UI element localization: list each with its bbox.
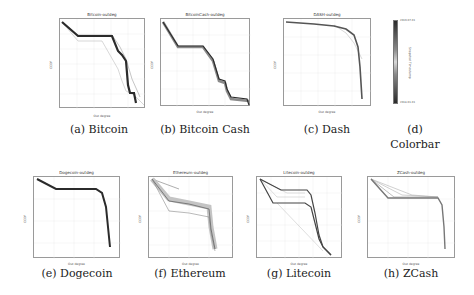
caption-f: (f) Ethereum <box>135 267 245 280</box>
y-axis-label: CCDF <box>357 209 361 223</box>
plot-area <box>160 18 250 106</box>
ccdf-curves <box>284 19 372 107</box>
colorbar-label: Snapshot Timestamp <box>408 47 412 77</box>
panel-title: BitcoinCash-outdeg <box>160 12 250 17</box>
panel-title: Bitcoin-outdeg <box>59 12 145 17</box>
x-axis-label: Out degree <box>160 110 250 114</box>
colorbar-top-tick: 2019-07-01 <box>400 19 415 22</box>
colorbar <box>393 20 398 104</box>
x-axis-label: Out degree <box>367 262 455 266</box>
y-axis-label: CCDF <box>23 209 27 223</box>
caption-a: (a) Bitcoin <box>44 123 154 136</box>
y-axis-label: CCDF <box>150 55 154 69</box>
caption-e: (e) Dogecoin <box>22 267 132 280</box>
panel-title: Litecoin-outdeg <box>256 170 342 175</box>
colorbar-bottom-tick: 2018-01-01 <box>400 101 415 104</box>
panel-title: ZCash-outdeg <box>367 170 455 175</box>
x-axis-label: Out degree <box>59 114 145 118</box>
ccdf-curves <box>34 177 121 259</box>
x-axis-label: Out degree <box>33 262 120 266</box>
y-axis-label: CCDF <box>49 55 53 69</box>
ccdf-curves <box>257 177 343 259</box>
panel-title: Ethereum-outdeg <box>148 170 233 175</box>
x-axis-label: Out degree <box>283 110 371 114</box>
y-axis-label: CCDF <box>138 209 142 223</box>
plot-area <box>256 176 342 258</box>
panel-title: DASH-outdeg <box>283 12 371 17</box>
ccdf-curves <box>368 177 456 259</box>
ccdf-curves <box>60 19 146 109</box>
caption-h: (h) ZCash <box>356 267 466 280</box>
panel-title: Dogecoin-outdeg <box>33 170 120 175</box>
x-axis-label: Out degree <box>148 262 233 266</box>
plot-area <box>59 18 145 108</box>
caption-g: (g) Litecoin <box>244 267 354 280</box>
y-axis-label: CCDF <box>273 55 277 69</box>
caption-b: (b) Bitcoin Cash <box>150 123 260 136</box>
ccdf-curves <box>161 19 251 107</box>
y-axis-label: CCDF <box>246 209 250 223</box>
plot-area <box>367 176 455 258</box>
ccdf-curves <box>149 177 234 259</box>
x-axis-label: Out degree <box>256 262 342 266</box>
plot-area <box>148 176 233 258</box>
caption-c: (c) Dash <box>272 123 382 136</box>
plot-area <box>33 176 120 258</box>
caption-d-label: (d) <box>380 123 450 136</box>
caption-d-name: Colorbar <box>372 138 458 151</box>
plot-area <box>283 18 371 106</box>
